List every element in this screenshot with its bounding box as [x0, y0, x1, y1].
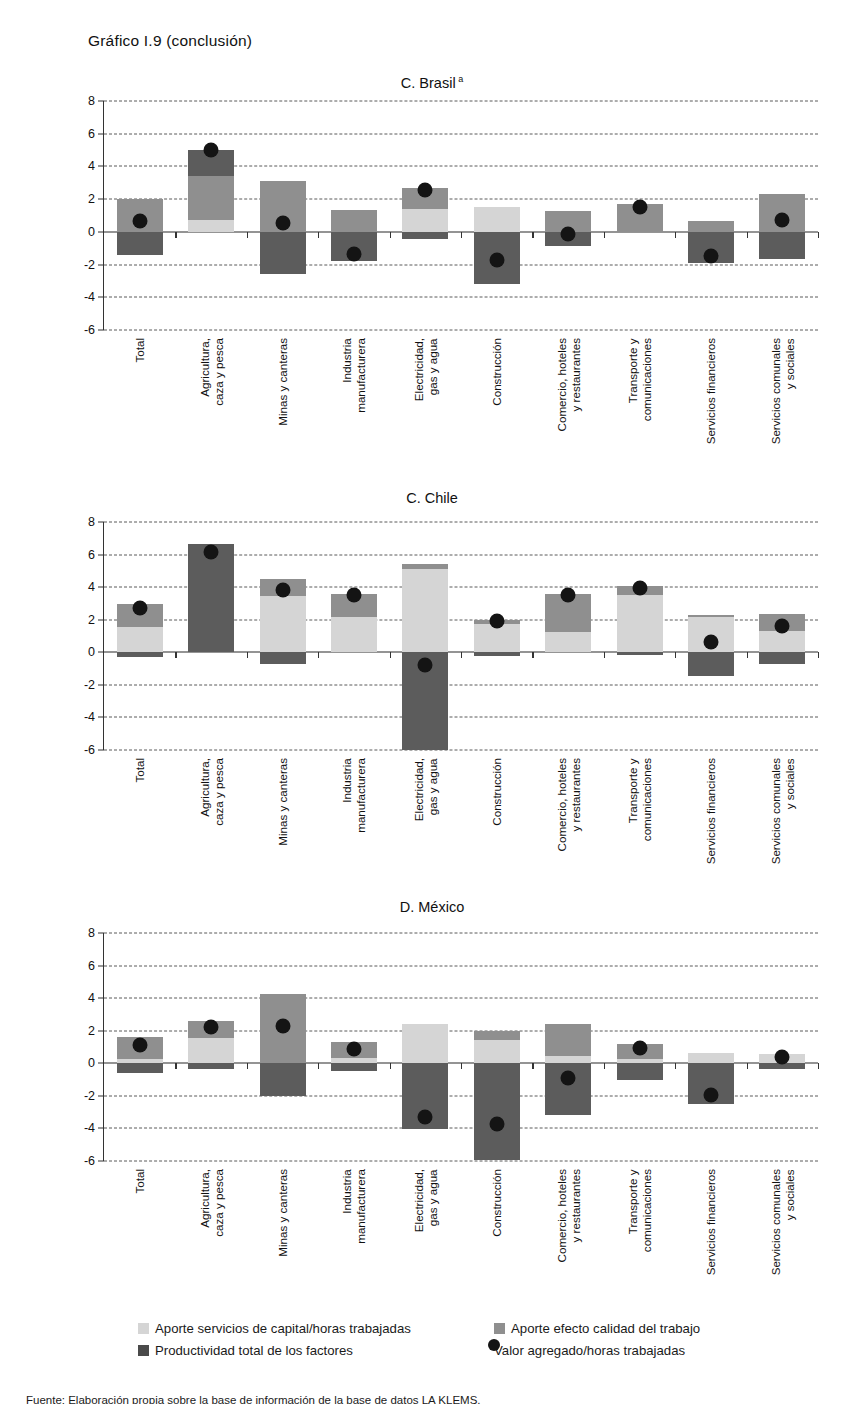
legend-swatch-quality-icon	[494, 1323, 505, 1334]
x-axis-tick-mark	[461, 1063, 462, 1069]
legend-label-value-added: Valor agregado/horas trabajadas	[494, 1343, 685, 1358]
panel-title-superscript: a	[456, 74, 464, 84]
y-axis-tick-label: -2	[65, 1089, 95, 1103]
value-added-marker	[275, 1018, 290, 1033]
y-axis-tick-label: -4	[65, 1121, 95, 1135]
value-added-marker	[418, 657, 433, 672]
x-axis-label-holder: Construcción	[457, 338, 537, 406]
bar-group	[545, 522, 591, 750]
legend-label-capital: Aporte servicios de capital/horas trabaj…	[155, 1321, 411, 1336]
x-axis-tick-mark	[604, 1063, 605, 1069]
x-axis-tick-mark	[461, 232, 462, 238]
x-axis-tick-mark	[604, 652, 605, 658]
x-axis-tick-mark	[675, 232, 676, 238]
x-axis-tick-mark	[175, 232, 176, 238]
y-axis-tick-label: 0	[65, 1056, 95, 1070]
value-added-marker	[132, 600, 147, 615]
bar-segment-capital	[402, 569, 448, 652]
x-axis-label-holder: Industria manufacturera	[314, 338, 394, 413]
x-axis-label-holder: Industria manufacturera	[314, 1169, 394, 1244]
bar-segment-capital	[474, 1040, 520, 1063]
x-axis-tick-mark	[247, 1063, 248, 1069]
x-axis-tick-mark	[318, 1063, 319, 1069]
x-axis-label: Construcción	[490, 1169, 504, 1237]
y-axis-tick-label: 0	[65, 225, 95, 239]
bar-segment-quality	[545, 1024, 591, 1056]
value-added-marker	[632, 200, 647, 215]
x-axis-label-holder: Electricidad, gas y agua	[385, 1169, 465, 1232]
x-axis-label-holder: Agricultura, caza y pesca	[171, 338, 251, 406]
bar-group	[474, 101, 520, 330]
x-axis-label: Electricidad, gas y agua	[412, 758, 439, 821]
x-axis-label: Minas y canteras	[276, 1169, 290, 1257]
y-axis-tick-label: 8	[65, 94, 95, 108]
x-axis-label: Minas y canteras	[276, 758, 290, 846]
y-axis-tick-label: -4	[65, 290, 95, 304]
bar-segment-tfp	[188, 1063, 234, 1069]
bar-group	[260, 933, 306, 1161]
bar-group	[188, 933, 234, 1161]
y-axis-line	[103, 101, 104, 330]
value-added-marker	[632, 580, 647, 595]
bar-segment-capital	[188, 1038, 234, 1063]
bar-segment-capital	[117, 627, 163, 652]
x-axis-label: Industria manufacturera	[340, 1169, 367, 1244]
x-axis-label-holder: Transporte y comunicaciones	[600, 338, 680, 421]
x-axis-label: Total	[133, 338, 147, 363]
x-axis-tick-mark	[175, 652, 176, 658]
plot-chile: 86420-2-4-6	[104, 522, 818, 750]
y-axis-tick-label: 8	[65, 515, 95, 529]
x-axis-label: Comercio, hoteles y restaurantes	[555, 1169, 582, 1262]
value-added-marker	[632, 1040, 647, 1055]
x-axis-label: Agricultura, caza y pesca	[198, 758, 225, 826]
x-axis-tick-mark	[818, 652, 819, 658]
bar-segment-quality	[688, 615, 734, 617]
bar-segment-tfp	[331, 1063, 377, 1070]
bar-segment-quality	[402, 564, 448, 569]
x-axis-tick-mark	[390, 652, 391, 658]
x-axis-tick-mark	[318, 652, 319, 658]
x-axis-label-holder: Industria manufacturera	[314, 758, 394, 833]
bar-segment-tfp	[617, 652, 663, 654]
x-axis-label-holder: Comercio, hoteles y restaurantes	[528, 338, 608, 431]
y-axis-tick-label: 6	[65, 127, 95, 141]
x-axis-label: Servicios financieros	[704, 758, 718, 864]
plot-brasil: 86420-2-4-6	[104, 101, 818, 330]
value-added-marker	[703, 1088, 718, 1103]
value-added-marker	[204, 1019, 219, 1034]
y-axis-tick-label: -6	[65, 323, 95, 337]
bar-segment-tfp	[188, 544, 234, 652]
panel-title-mexico: D. México	[0, 899, 864, 915]
bar-segment-tfp	[117, 652, 163, 657]
x-axis-label: Servicios financieros	[704, 338, 718, 444]
legend-row-1: Aporte servicios de capital/horas trabaj…	[138, 1318, 758, 1339]
plot-area-chile: 86420-2-4-6	[104, 522, 818, 750]
value-added-marker	[275, 583, 290, 598]
x-axis-label: Servicios financieros	[704, 1169, 718, 1275]
x-axis-label-holder: Total	[100, 758, 180, 783]
x-axis-label-holder: Comercio, hoteles y restaurantes	[528, 758, 608, 851]
value-added-marker	[561, 588, 576, 603]
value-added-marker	[775, 619, 790, 634]
y-axis-tick-label: 6	[65, 548, 95, 562]
x-axis-tick-mark	[747, 652, 748, 658]
x-axis-label: Total	[133, 1169, 147, 1194]
x-axis-label-holder: Servicios financieros	[671, 758, 751, 864]
figure-page: Gráfico I.9 (conclusión) C. Brasil a8642…	[0, 0, 864, 1404]
y-axis-tick-label: -2	[65, 258, 95, 272]
value-added-marker	[132, 214, 147, 229]
bar-segment-capital	[545, 632, 591, 652]
plot-mexico: 86420-2-4-6	[104, 933, 818, 1161]
x-axis-tick-mark	[175, 1063, 176, 1069]
bar-segment-tfp	[759, 232, 805, 259]
x-axis-tick-mark	[532, 652, 533, 658]
x-axis-label-holder: Construcción	[457, 1169, 537, 1237]
y-axis-line	[103, 933, 104, 1161]
value-added-marker	[561, 1070, 576, 1085]
x-axis-label: Electricidad, gas y agua	[412, 1169, 439, 1232]
panel-title-text: C. Chile	[406, 490, 458, 506]
x-axis-label-holder: Servicios comunales y sociales	[742, 758, 822, 864]
x-axis-tick-mark	[318, 232, 319, 238]
y-axis-tick-label: 0	[65, 645, 95, 659]
value-added-marker	[204, 143, 219, 158]
